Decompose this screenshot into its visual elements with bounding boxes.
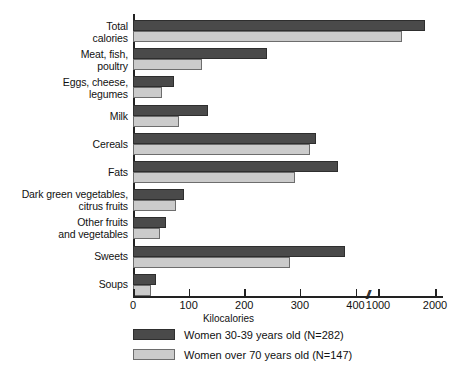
- bar: [133, 217, 166, 228]
- bar: [133, 228, 160, 239]
- bar: [133, 274, 156, 285]
- category-label-fats: Fats: [0, 167, 128, 179]
- legend-swatch-light: [133, 349, 175, 360]
- x-axis-title: Kilocalories: [0, 313, 457, 324]
- x-tick: [300, 289, 302, 297]
- category-label-soups: Soups: [0, 279, 128, 291]
- x-tick: [435, 289, 437, 297]
- x-tick: [356, 289, 358, 297]
- legend-item-women-over-70: Women over 70 years old (N=147): [133, 346, 453, 363]
- bar-chart: Total calories Meat, fish, poultry Eggs,…: [0, 0, 457, 371]
- bar: [133, 133, 316, 144]
- legend-label-women-over-70: Women over 70 years old (N=147): [184, 349, 352, 361]
- x-tick-label: 0: [130, 299, 136, 311]
- category-label-milk: Milk: [0, 111, 128, 123]
- bar: [133, 59, 202, 70]
- bar: [133, 172, 295, 183]
- bar: [133, 20, 425, 31]
- bar: [133, 76, 174, 87]
- category-label-eggs-cheese-legumes: Eggs, cheese, legumes: [0, 77, 128, 100]
- category-label-dark-green-vegetables: Dark green vegetables, citrus fruits: [0, 189, 128, 212]
- bar: [133, 189, 184, 200]
- legend-label-women-30-39: Women 30-39 years old (N=282): [184, 329, 344, 341]
- bar: [133, 87, 162, 98]
- x-tick-label: 100: [179, 299, 197, 311]
- x-tick-label: 400: [346, 299, 364, 311]
- x-tick: [244, 289, 246, 297]
- category-label-other-fruits-vegetables: Other fruits and vegetables: [0, 217, 128, 240]
- bar: [133, 200, 176, 211]
- category-label-cereals: Cereals: [0, 139, 128, 151]
- legend-swatch-dark: [133, 329, 175, 340]
- category-label-total-calories: Total calories: [0, 21, 128, 44]
- x-tick: [133, 289, 135, 297]
- legend: Women 30-39 years old (N=282) Women over…: [133, 326, 453, 366]
- x-tick: [378, 289, 380, 297]
- x-tick-label: 200: [235, 299, 253, 311]
- bar: [133, 257, 290, 268]
- bar: [133, 285, 151, 296]
- x-tick-label: 300: [291, 299, 309, 311]
- plot-area: [133, 14, 443, 296]
- bar: [133, 144, 310, 155]
- category-label-meat-fish-poultry: Meat, fish, poultry: [0, 49, 128, 72]
- bar: [133, 105, 208, 116]
- x-tick: [189, 289, 191, 297]
- x-tick-label: 2000: [423, 299, 447, 311]
- category-label-column: Total calories Meat, fish, poultry Eggs,…: [0, 0, 128, 300]
- bar: [133, 48, 267, 59]
- bar: [133, 31, 402, 42]
- bar: [133, 161, 338, 172]
- category-label-sweets: Sweets: [0, 251, 128, 263]
- bar: [133, 246, 345, 257]
- x-tick-label: 1000: [366, 299, 390, 311]
- bar: [133, 116, 179, 127]
- x-axis-line: [133, 296, 443, 298]
- axis-break-marker: //: [366, 288, 369, 302]
- legend-item-women-30-39: Women 30-39 years old (N=282): [133, 326, 453, 343]
